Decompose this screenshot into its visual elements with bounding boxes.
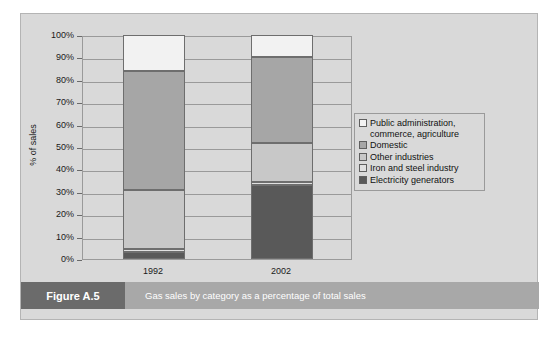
y-axis-tick-label: 30% [32,188,74,197]
plot-frame [82,36,352,260]
legend-swatch [359,153,367,161]
bar-segment [251,182,313,185]
bar-segment [123,71,185,190]
y-axis-tick-label: 40% [32,165,74,174]
legend-swatch [359,141,367,149]
bar-segment [123,252,185,259]
figure-panel: % of sales 0%10%20%30%40%50%60%70%80%90%… [20,13,538,320]
bar-segment [123,249,185,252]
legend-label: Public administration, commerce, agricul… [370,118,459,139]
legend-swatch [359,176,367,184]
chart-legend: Public administration, commerce, agricul… [354,113,485,191]
y-axis-tick-label: 70% [32,98,74,107]
legend-swatch [359,164,367,172]
y-axis-tick [77,260,82,261]
bar-segment [251,185,313,259]
y-axis-tick-label: 100% [32,31,74,40]
bar-segment [251,143,313,182]
legend-swatch [359,119,367,127]
legend-label: Other industries [370,152,434,163]
legend-item: Other industries [359,152,479,163]
bar-segment [251,35,313,57]
y-axis-tick-label: 60% [32,121,74,130]
figure-root: % of sales 0%10%20%30%40%50%60%70%80%90%… [0,0,560,340]
y-axis-tick-label: 0% [32,255,74,264]
legend-item: Electricity generators [359,175,479,186]
x-axis-tick-label: 2002 [241,266,321,276]
chart-area: % of sales 0%10%20%30%40%50%60%70%80%90%… [21,14,539,282]
x-axis-tick-label: 1992 [113,266,193,276]
caption-bar: Figure A.5 Gas sales by category as a pe… [21,282,539,309]
legend-label: Domestic [370,140,408,151]
legend-item: Domestic [359,140,479,151]
y-axis-tick-label: 80% [32,76,74,85]
bar-stack [123,35,185,259]
bar-stack [251,35,313,259]
y-axis-tick-label: 50% [32,143,74,152]
y-axis-tick-label: 90% [32,53,74,62]
figure-caption: Gas sales by category as a percentage of… [145,282,366,309]
figure-number: Figure A.5 [21,282,125,309]
bar-segment [123,35,185,71]
legend-item: Public administration, commerce, agricul… [359,118,479,139]
bar-segment [251,57,313,142]
legend-item: Iron and steel industry [359,163,479,174]
legend-label: Iron and steel industry [370,163,459,174]
y-axis-tick-label: 20% [32,210,74,219]
legend-label: Electricity generators [370,175,454,186]
bar-segment [123,190,185,249]
y-axis-tick-label: 10% [32,233,74,242]
